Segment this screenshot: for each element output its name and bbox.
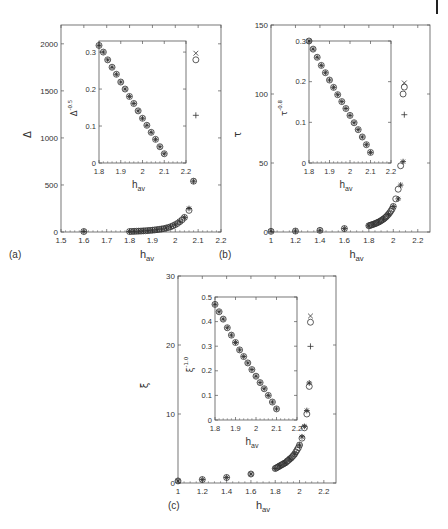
star-marker: [248, 471, 254, 477]
star-marker: [274, 406, 279, 411]
star-marker: [299, 434, 305, 440]
star-marker: [306, 380, 312, 386]
star-marker: [199, 477, 205, 483]
star-marker: [221, 317, 226, 322]
main-xtick-label: 2.2: [318, 487, 330, 496]
star-marker: [270, 400, 275, 405]
inset-ytick-label: 0.4: [202, 317, 212, 326]
main-xtick-label: 1.4: [221, 487, 233, 496]
panel-c: 11.21.41.61.822.20102030havξ(c)1.81.922.…: [0, 0, 448, 529]
star-marker: [224, 475, 230, 481]
panel-label: (c): [168, 500, 180, 511]
circle-marker: [307, 319, 313, 325]
main-xtick-label: 1.2: [197, 487, 209, 496]
main-xtick-label: 1: [176, 487, 181, 496]
inset-ytick-label: 0.3: [202, 342, 212, 351]
main-xtick-label: 2: [297, 487, 302, 496]
star-marker: [304, 408, 310, 414]
inset-xtick-label: 1.8: [210, 424, 220, 433]
figure: 1.51.61.71.81.922.12.20500100015002000ha…: [0, 0, 448, 529]
star-marker: [297, 442, 303, 448]
inset-frame: [215, 297, 297, 420]
star-marker: [302, 424, 308, 430]
inset-ytick-label: 0.2: [202, 366, 212, 375]
inset-ytick-label: 0: [208, 416, 212, 425]
main-ytick-label: 20: [166, 341, 175, 350]
cross-marker: [308, 314, 313, 319]
main-ytick-label: 10: [166, 410, 175, 419]
star-marker: [292, 451, 298, 457]
star-marker: [287, 456, 293, 462]
star-marker: [282, 460, 288, 466]
plus-marker: [307, 343, 313, 349]
main-ytick-label: 30: [166, 272, 175, 281]
inset-ylabel: ξ-1.0: [183, 356, 195, 372]
main-xtick-label: 1.6: [245, 487, 257, 496]
star-marker: [277, 463, 283, 469]
star-marker: [233, 340, 238, 345]
star-marker: [213, 302, 218, 307]
inset-xtick-label: 1.9: [230, 424, 240, 433]
star-marker: [272, 466, 278, 472]
inset-xtick-label: 2: [254, 424, 258, 433]
inset-xlabel: hav: [246, 436, 259, 449]
figure-caption: [10, 516, 440, 526]
main-ylabel: ξ: [139, 383, 150, 389]
star-marker: [258, 380, 263, 385]
inset-ytick-label: 0.1: [202, 391, 212, 400]
star-marker: [245, 360, 250, 365]
star-marker: [254, 374, 259, 379]
main-xtick-label: 1.8: [270, 487, 282, 496]
star-marker: [225, 325, 230, 330]
inset-xtick-label: 2.1: [271, 424, 281, 433]
inset-ytick-label: 0.5: [202, 293, 212, 302]
main-xlabel: hav: [256, 499, 270, 514]
inset-xtick-label: 2.2: [292, 424, 302, 433]
